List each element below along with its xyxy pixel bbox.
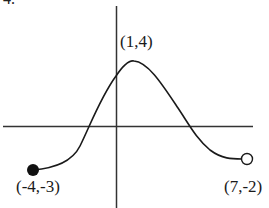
end-point-label: (7,-2)	[224, 177, 262, 196]
function-curve	[33, 61, 242, 170]
function-graph: (1,4) (-4,-3) (7,-2)	[0, 0, 269, 208]
closed-endpoint-marker	[27, 164, 39, 176]
start-point-label: (-4,-3)	[16, 177, 60, 196]
peak-label: (1,4)	[120, 32, 153, 51]
open-endpoint-marker	[242, 154, 253, 165]
